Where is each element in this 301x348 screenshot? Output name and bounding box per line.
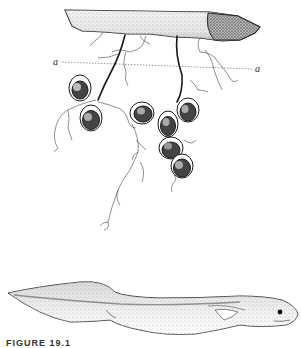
egg-capsule — [158, 111, 178, 137]
egg-capsules — [69, 75, 199, 178]
egg-stalks — [98, 35, 182, 102]
figure-caption: FIGURE 19.1 — [6, 338, 71, 348]
larva — [8, 282, 298, 335]
label-a-left: a — [53, 56, 58, 67]
egg-capsule — [69, 75, 91, 101]
egg-capsule — [80, 105, 102, 131]
submerged-stick — [65, 10, 260, 41]
label-a-right: a — [255, 63, 260, 74]
rootlets — [54, 32, 238, 230]
eye-icon — [278, 310, 283, 315]
egg-capsule — [177, 98, 199, 122]
egg-capsule — [130, 102, 154, 124]
egg-capsule — [171, 154, 193, 178]
plane-line-a-a — [62, 62, 252, 69]
